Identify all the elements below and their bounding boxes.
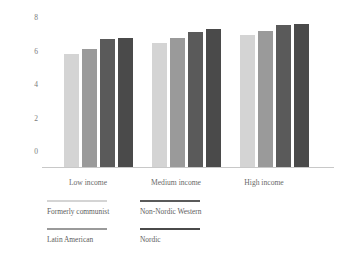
- chart-legend: Formerly communist Non-Nordic Western La…: [47, 200, 307, 252]
- legend-swatch-nordic: [140, 228, 200, 230]
- chart-figure: 8 6 4 2 0 Low income Medium income High: [0, 0, 353, 259]
- bar-low-nordic: [118, 38, 133, 167]
- x-axis-baseline: [42, 167, 334, 168]
- y-tick-4: 4: [20, 81, 38, 89]
- y-tick-8: 8: [20, 14, 38, 22]
- y-tick-2: 2: [20, 115, 38, 123]
- bar-low-formerly-communist: [64, 54, 79, 167]
- x-label-medium-income: Medium income: [132, 178, 220, 187]
- plot-area: [42, 18, 334, 168]
- bar-low-non-nordic-western: [100, 39, 115, 167]
- bar-high-latin-american: [258, 31, 273, 167]
- bar-group-low-income: [64, 18, 136, 167]
- bar-group-high-income: [240, 18, 312, 167]
- x-label-low-income: Low income: [44, 178, 132, 187]
- bar-high-formerly-communist: [240, 35, 255, 167]
- bar-medium-latin-american: [170, 38, 185, 167]
- legend-label-latin-american: Latin American: [47, 235, 142, 244]
- legend-item-non-nordic-western: Non-Nordic Western: [140, 200, 235, 216]
- legend-item-nordic: Nordic: [140, 228, 235, 244]
- bar-medium-nordic: [206, 29, 221, 167]
- bar-high-nordic: [294, 24, 309, 167]
- legend-swatch-latin-american: [47, 228, 107, 230]
- legend-swatch-non-nordic-western: [140, 200, 200, 202]
- y-axis: 8 6 4 2 0: [18, 18, 38, 168]
- x-label-high-income: High income: [220, 178, 308, 187]
- bar-group-medium-income: [152, 18, 224, 167]
- bar-medium-formerly-communist: [152, 43, 167, 167]
- legend-swatch-formerly-communist: [47, 200, 107, 202]
- legend-label-formerly-communist: Formerly communist: [47, 207, 142, 216]
- y-tick-6: 6: [20, 48, 38, 56]
- legend-label-nordic: Nordic: [140, 235, 235, 244]
- legend-item-formerly-communist: Formerly communist: [47, 200, 142, 216]
- legend-item-latin-american: Latin American: [47, 228, 142, 244]
- legend-label-non-nordic-western: Non-Nordic Western: [140, 207, 235, 216]
- bar-low-latin-american: [82, 49, 97, 167]
- y-tick-0: 0: [20, 148, 38, 156]
- bar-high-non-nordic-western: [276, 25, 291, 167]
- bar-medium-non-nordic-western: [188, 32, 203, 167]
